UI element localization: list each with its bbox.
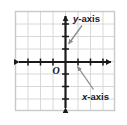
x-axis-label-suffix: -axis [87,91,109,102]
origin-label: O [52,65,59,76]
x-axis-label: x-axis [81,91,109,102]
coordinate-plane-svg: O y-axis x-axis [0,0,127,125]
y-axis-label-suffix: -axis [78,13,100,24]
coordinate-plane-diagram: O y-axis x-axis [0,0,127,125]
y-axis-label: y-axis [72,13,100,24]
